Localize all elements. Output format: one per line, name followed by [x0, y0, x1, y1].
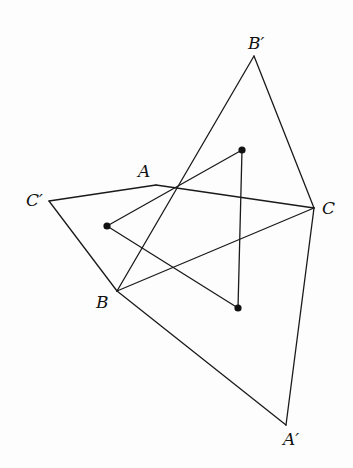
segment-P1-P2	[107, 150, 242, 226]
label-A-prime: A′	[283, 431, 299, 448]
segment-C-prime-A	[49, 185, 156, 201]
segment-B-A-prime	[117, 291, 286, 425]
label-B: B	[96, 294, 109, 311]
segment-C-prime-B	[49, 201, 117, 291]
geometry-diagram: A B C A′ B′ C′	[0, 0, 353, 468]
marked-point-p2	[103, 222, 110, 229]
marked-point-p1	[238, 146, 245, 153]
segment-B-prime-C	[254, 56, 314, 208]
label-A: A	[138, 163, 150, 180]
segment-P3-P1	[238, 150, 242, 308]
marked-point-p3	[234, 304, 241, 311]
diagram-canvas	[0, 0, 353, 468]
segment-C-A-prime	[286, 208, 314, 425]
segment-P2-P3	[107, 226, 238, 308]
label-C: C	[322, 200, 335, 217]
label-B-prime: B′	[248, 35, 264, 52]
segment-A-C	[156, 185, 314, 208]
segment-B-C	[117, 208, 314, 291]
label-C-prime: C′	[26, 192, 43, 209]
